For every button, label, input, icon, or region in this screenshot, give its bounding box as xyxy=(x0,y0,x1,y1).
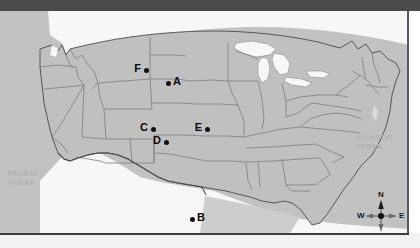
atlantic-ocean-label: ATLANTIC OCEAN xyxy=(355,133,393,151)
lake-michigan xyxy=(258,57,270,83)
point-label-b: B xyxy=(197,212,205,223)
united-states-map-graphic xyxy=(0,11,409,233)
point-label-c: C xyxy=(140,122,148,133)
compass-rose: N S W E xyxy=(356,191,406,233)
point-marker-dot xyxy=(190,217,195,222)
bottom-band xyxy=(0,233,420,248)
bottom-divider-rule xyxy=(0,233,409,235)
point-label-f: F xyxy=(134,63,141,74)
compass-west-label: W xyxy=(357,212,365,220)
map-plate-right-edge xyxy=(407,11,409,233)
point-marker-dot xyxy=(205,127,210,132)
map-plate: PACIFIC OCEAN ATLANTIC OCEAN F A C D E B xyxy=(0,11,409,233)
point-marker-dot xyxy=(151,127,156,132)
map-screenshot: PACIFIC OCEAN ATLANTIC OCEAN F A C D E B xyxy=(0,0,420,248)
compass-north-label: N xyxy=(378,191,384,199)
point-marker-dot xyxy=(144,68,149,73)
point-label-e: E xyxy=(195,122,202,133)
point-label-a: A xyxy=(173,76,181,87)
top-dark-band xyxy=(0,0,420,11)
compass-needle-icon xyxy=(364,198,398,233)
point-marker-dot xyxy=(164,140,169,145)
pacific-ocean-label: PACIFIC OCEAN xyxy=(8,169,38,187)
point-label-d: D xyxy=(153,135,161,146)
point-marker-dot xyxy=(166,81,171,86)
compass-east-label: E xyxy=(399,212,404,220)
